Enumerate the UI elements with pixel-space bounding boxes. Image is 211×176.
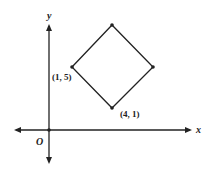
- origin-label: O: [36, 136, 43, 147]
- vertex-top: [110, 23, 114, 27]
- coordinate-diagram: y x O (1, 5) (4, 1): [0, 0, 211, 176]
- vertex-label-left: (1, 5): [52, 72, 72, 82]
- y-axis: [46, 24, 52, 164]
- vertex-label-bottom: (4, 1): [120, 109, 140, 119]
- x-axis-label: x: [195, 124, 201, 135]
- x-axis: [14, 127, 192, 133]
- square: [72, 25, 153, 108]
- vertex-right: [151, 65, 155, 69]
- origin-point: [47, 128, 51, 132]
- vertex-left: [70, 65, 74, 69]
- y-axis-label: y: [46, 10, 52, 21]
- vertex-bottom: [110, 106, 114, 110]
